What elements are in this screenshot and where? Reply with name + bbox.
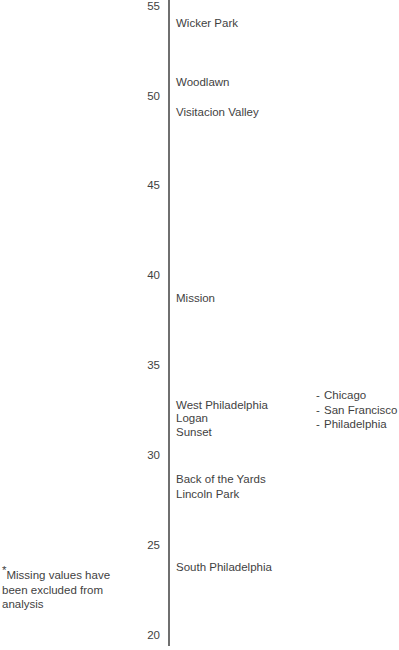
y-axis-tick-50: 50	[126, 90, 160, 102]
legend-item-san-francisco: -San Francisco	[316, 403, 398, 418]
legend-dash-icon: -	[316, 417, 324, 432]
y-axis-tick-55: 55	[126, 0, 160, 12]
point-label-mission: Mission	[176, 292, 215, 304]
footnote-text: Missing values have been excluded from a…	[2, 569, 110, 610]
footnote: *Missing values have been excluded from …	[2, 568, 122, 612]
point-label-wicker-park: Wicker Park	[176, 17, 238, 29]
legend-dash-icon: -	[316, 388, 324, 403]
chart-canvas: 5550454035302520 Wicker ParkWoodlawnVisi…	[0, 0, 399, 650]
y-axis-tick-20: 20	[126, 629, 160, 641]
legend-item-chicago: -Chicago	[316, 388, 398, 403]
point-label-logan: Logan	[176, 412, 208, 424]
legend-dash-icon: -	[316, 403, 324, 418]
point-label-lincoln-park: Lincoln Park	[176, 488, 239, 500]
point-label-west-philadelphia: West Philadelphia	[176, 399, 268, 411]
point-label-back-of-the-yards: Back of the Yards	[176, 473, 266, 485]
legend-item-philadelphia: -Philadelphia	[316, 417, 398, 432]
y-axis-tick-35: 35	[126, 359, 160, 371]
legend-item-label: Philadelphia	[324, 418, 387, 430]
point-label-south-philadelphia: South Philadelphia	[176, 561, 272, 573]
point-label-visitacion-valley: Visitacion Valley	[176, 106, 259, 118]
y-axis-line	[168, 0, 170, 646]
point-label-sunset: Sunset	[176, 426, 212, 438]
y-axis-tick-40: 40	[126, 269, 160, 281]
legend-item-label: Chicago	[324, 389, 366, 401]
y-axis-tick-25: 25	[126, 539, 160, 551]
legend-item-label: San Francisco	[324, 404, 398, 416]
y-axis-tick-45: 45	[126, 179, 160, 191]
y-axis-tick-30: 30	[126, 449, 160, 461]
chart-legend: -Chicago-San Francisco-Philadelphia	[316, 388, 398, 432]
point-label-woodlawn: Woodlawn	[176, 76, 230, 88]
